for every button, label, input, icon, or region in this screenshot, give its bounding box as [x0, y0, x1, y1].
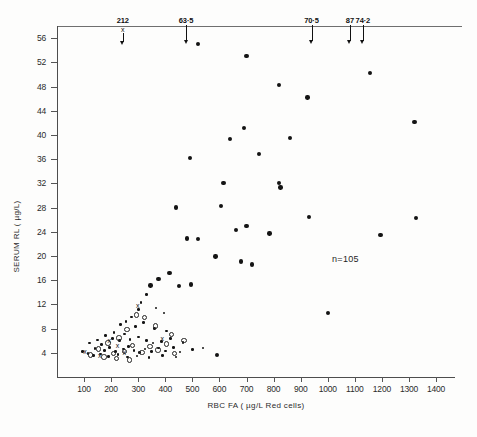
- data-point-filled-circle: [134, 325, 137, 328]
- data-point-cross: x: [122, 349, 126, 356]
- data-point-filled-circle: [111, 337, 114, 340]
- arrow-head-icon: [309, 40, 313, 44]
- x-axis-tick-mark: [247, 377, 248, 382]
- x-axis-tick-label: 800: [259, 384, 289, 394]
- data-point-filled-circle: [136, 355, 139, 358]
- data-point-open-circle: [169, 332, 174, 337]
- x-axis-tick-mark: [165, 377, 166, 382]
- data-point-filled-circle: [278, 185, 282, 189]
- x-axis-tick-mark: [274, 377, 275, 382]
- x-axis-tick-mark: [409, 377, 410, 382]
- data-point-filled-circle: [368, 71, 372, 75]
- offscale-arrow: 212x: [109, 16, 137, 46]
- x-axis-tick-mark: [138, 377, 139, 382]
- y-axis-tick-mark: [51, 87, 57, 88]
- y-axis-tick-label: 20: [22, 251, 46, 261]
- data-point-filled-circle: [119, 323, 122, 326]
- data-point-filled-circle: [244, 54, 248, 58]
- data-point-filled-circle: [179, 351, 182, 354]
- y-axis-tick-label: 12: [22, 299, 46, 309]
- data-point-filled-circle: [288, 136, 292, 140]
- x-axis-title: RBC FA ( µg/L Red cells): [57, 401, 455, 410]
- data-point-filled-circle: [150, 350, 153, 353]
- x-axis-tick-label: 300: [123, 384, 153, 394]
- y-axis-tick-mark: [51, 208, 57, 209]
- arrow-head-icon: [184, 40, 188, 44]
- data-point-filled-circle: [307, 215, 311, 219]
- data-point-open-circle: [127, 357, 132, 362]
- data-point-filled-circle: [185, 236, 189, 240]
- data-point-open-circle: [153, 323, 158, 328]
- x-axis-tick-mark: [219, 377, 220, 382]
- arrow-head-icon: [120, 41, 124, 45]
- data-point-filled-circle: [244, 224, 248, 228]
- data-point-filled-circle: [250, 262, 254, 266]
- data-point-filled-circle: [267, 231, 271, 235]
- data-point-open-circle: [164, 341, 169, 346]
- y-axis-tick-mark: [51, 135, 57, 136]
- x-axis-tick-mark: [111, 377, 112, 382]
- data-point-filled-circle: [191, 348, 194, 351]
- data-point-cross: x: [108, 337, 112, 344]
- offscale-arrow-label: 74·2: [356, 16, 371, 25]
- x-axis-tick-label: 1300: [394, 384, 424, 394]
- data-point-filled-circle: [133, 349, 136, 352]
- data-point-filled-circle: [142, 321, 145, 324]
- data-point-cross: x: [136, 302, 140, 309]
- y-axis-tick-mark: [51, 38, 57, 39]
- x-axis-tick-mark: [192, 377, 193, 382]
- y-axis-tick-mark: [51, 111, 57, 112]
- data-point-filled-circle: [219, 204, 223, 208]
- sample-size-annotation: n=105: [332, 254, 359, 264]
- y-axis-tick-mark: [51, 304, 57, 305]
- x-axis-tick-label: 900: [286, 384, 316, 394]
- y-axis-tick-mark: [51, 232, 57, 233]
- x-axis-tick-label: 1000: [313, 384, 343, 394]
- y-axis-tick-label: 28: [22, 203, 46, 213]
- x-axis-tick-label: 700: [232, 384, 262, 394]
- data-point-filled-circle: [326, 311, 330, 315]
- x-axis-tick-label: 1100: [340, 384, 370, 394]
- data-point-cross: x: [160, 335, 164, 342]
- y-axis-tick-mark: [51, 62, 57, 63]
- data-point-open-circle: [116, 335, 121, 340]
- data-point-filled-circle: [305, 95, 309, 99]
- data-point-filled-circle: [104, 334, 107, 337]
- data-point-filled-circle: [412, 120, 416, 124]
- data-point-filled-circle: [137, 336, 140, 339]
- data-point-open-circle: [101, 354, 106, 359]
- data-point-filled-circle: [107, 355, 110, 358]
- data-point-filled-circle: [414, 216, 418, 220]
- scatter-plot-figure: 48121620242832364044485256 1002003004005…: [0, 0, 477, 437]
- data-point-filled-circle: [189, 282, 193, 286]
- data-point-filled-circle: [202, 347, 205, 350]
- x-axis-tick-mark: [328, 377, 329, 382]
- arrow-shaft: [186, 25, 187, 41]
- data-point-filled-circle: [148, 283, 152, 287]
- cross-marker-icon: x: [121, 26, 125, 33]
- offscale-arrow-label: 63·5: [179, 16, 194, 25]
- data-point-filled-circle: [257, 152, 261, 156]
- data-point-filled-circle: [100, 343, 103, 346]
- data-point-filled-circle: [177, 284, 181, 288]
- data-point-open-circle: [130, 343, 135, 348]
- x-axis-tick-label: 400: [150, 384, 180, 394]
- data-point-filled-circle: [145, 293, 148, 296]
- data-point-filled-circle: [96, 339, 99, 342]
- y-axis-tick-label: 40: [22, 130, 46, 140]
- x-axis-tick-mark: [84, 377, 85, 382]
- x-axis-tick-label: 200: [96, 384, 126, 394]
- data-point-filled-circle: [88, 342, 91, 345]
- plot-frame-bottom-axis: [57, 377, 455, 378]
- data-point-open-circle: [155, 347, 160, 352]
- data-point-filled-circle: [155, 307, 158, 310]
- data-point-filled-circle: [228, 137, 232, 141]
- y-axis-tick-label: 56: [22, 33, 46, 43]
- y-axis-tick-label: 36: [22, 154, 46, 164]
- y-axis-tick-label: 24: [22, 227, 46, 237]
- data-point-open-circle: [139, 350, 144, 355]
- arrow-shaft: [312, 25, 313, 41]
- data-point-cross: x: [116, 342, 120, 349]
- offscale-arrow-label: 70·5: [304, 16, 319, 25]
- y-axis-tick-label: 48: [22, 82, 46, 92]
